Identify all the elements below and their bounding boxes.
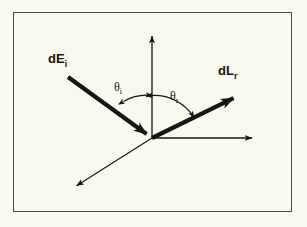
reflected-vector-label: dLr	[218, 63, 238, 81]
reflected-radiance-vector	[152, 98, 234, 138]
incident-vector-label-subscript: i	[65, 59, 68, 69]
incident-angle-label-subscript: i	[120, 87, 123, 96]
incident-vector-label: dEi	[48, 51, 67, 69]
depth-axis	[77, 138, 153, 186]
figure-canvas: dEi dLr θi θr	[0, 0, 307, 227]
incident-irradiance-vector	[68, 77, 147, 134]
incident-vector-label-base: dE	[48, 51, 65, 66]
reflected-angle-label: θr	[170, 89, 179, 105]
reflected-vector-label-subscript: r	[234, 71, 238, 81]
incident-angle-arc	[124, 95, 153, 101]
vector-diagram: dEi dLr θi θr	[0, 0, 307, 227]
reflected-angle-label-subscript: r	[176, 96, 179, 105]
incident-angle-label: θi	[114, 80, 123, 96]
reflected-vector-label-base: dL	[218, 63, 234, 78]
